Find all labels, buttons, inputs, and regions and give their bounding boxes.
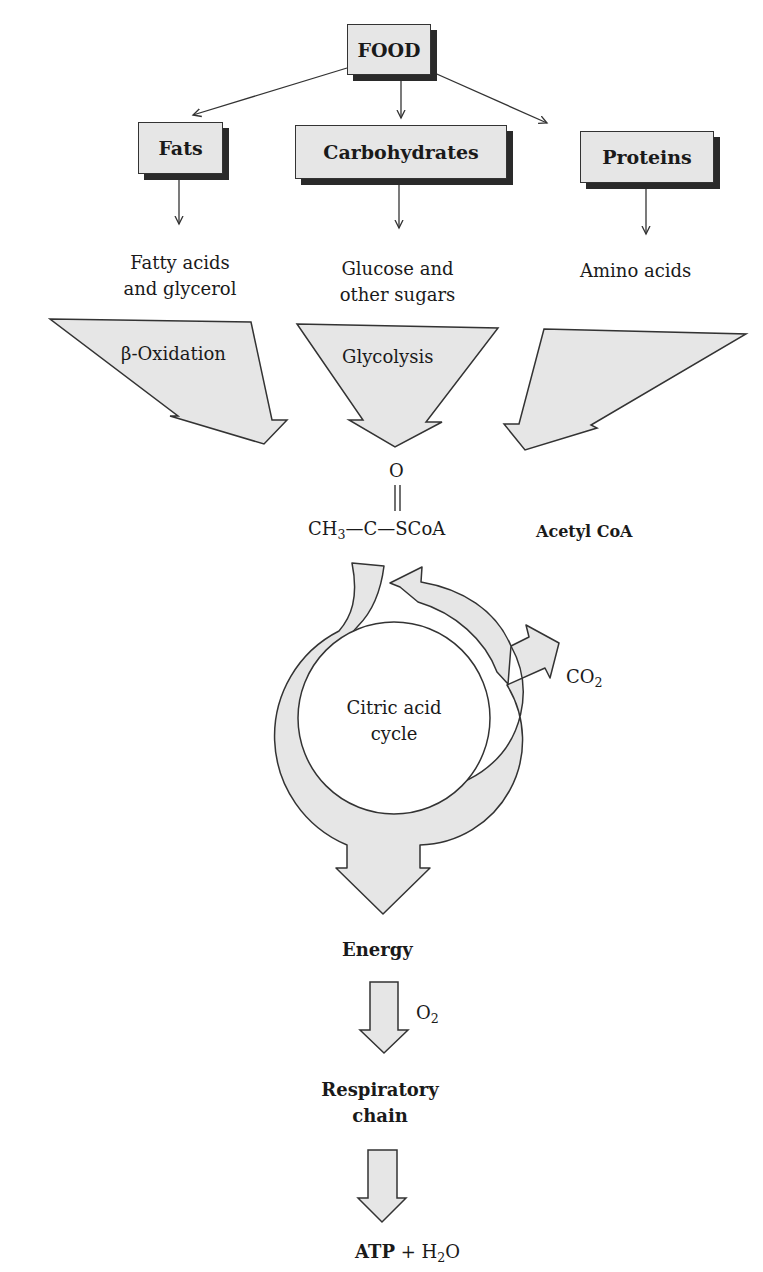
ch3-group: CH3 xyxy=(308,518,346,539)
bond-1: — xyxy=(346,518,364,539)
scoa-group: SCoA xyxy=(395,518,445,539)
respiratory-to-atp-arrow xyxy=(358,1150,406,1222)
bond-2: — xyxy=(377,518,395,539)
energy-to-respiratory-arrow xyxy=(360,982,408,1053)
amino-acids-label: Amino acids xyxy=(580,258,691,284)
h2o-text: H2O xyxy=(421,1241,459,1262)
beta-oxidation-label: β-Oxidation xyxy=(121,341,226,367)
fatty-acids-line1: Fatty acids xyxy=(110,250,250,276)
glucose-line1: Glucose and xyxy=(325,256,470,282)
carbonyl-c: C xyxy=(364,518,378,539)
o2-label: O2 xyxy=(416,1000,439,1026)
carbohydrates-box: Carbohydrates xyxy=(295,125,507,179)
co2-label: CO2 xyxy=(566,664,603,690)
respiratory-chain-label: Respiratory chain xyxy=(300,1077,460,1129)
cycle-line1: Citric acid xyxy=(324,695,464,721)
fats-box: Fats xyxy=(138,122,223,174)
amino-acid-arrow xyxy=(504,329,746,450)
respiratory-line2: chain xyxy=(300,1103,460,1129)
acetyl-carbonyl-o: O xyxy=(389,458,404,484)
glucose-label: Glucose and other sugars xyxy=(325,256,470,308)
glycolysis-label: Glycolysis xyxy=(342,344,433,370)
atp-text: ATP xyxy=(355,1241,395,1262)
respiratory-line1: Respiratory xyxy=(300,1077,460,1103)
arrow-food-to-fats xyxy=(193,68,347,115)
glucose-line2: other sugars xyxy=(325,282,470,308)
proteins-box: Proteins xyxy=(580,131,714,183)
arrow-food-to-proteins xyxy=(430,71,547,123)
acetyl-formula: CH3—C—SCoA xyxy=(308,516,445,542)
glycolysis-arrow xyxy=(297,324,498,447)
atp-h2o-label: ATP + H2O xyxy=(355,1239,460,1265)
beta-oxidation-arrow xyxy=(50,319,287,444)
energy-label: Energy xyxy=(342,939,413,960)
plus-sign: + xyxy=(401,1241,416,1262)
acetyl-coa-name: Acetyl CoA xyxy=(536,522,633,541)
food-box: FOOD xyxy=(347,24,431,75)
fatty-acids-line2: and glycerol xyxy=(110,276,250,302)
cycle-line2: cycle xyxy=(324,721,464,747)
fatty-acids-label: Fatty acids and glycerol xyxy=(110,250,250,302)
citric-acid-cycle-label: Citric acid cycle xyxy=(324,695,464,747)
